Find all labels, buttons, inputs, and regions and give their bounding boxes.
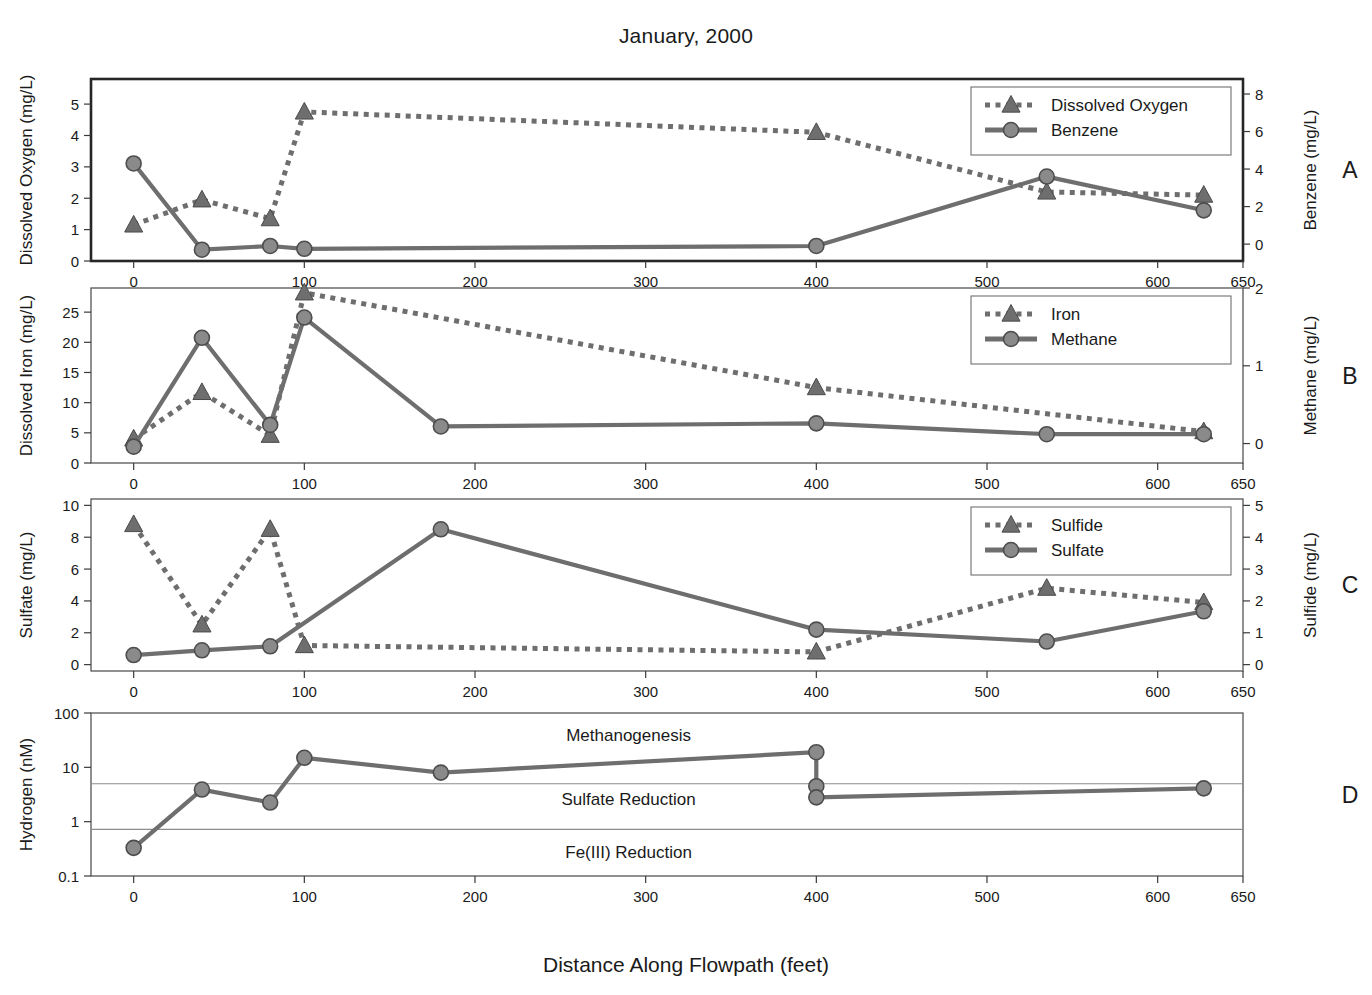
data-point-circle	[297, 310, 312, 325]
y-tick-label-left: 10	[62, 497, 79, 514]
data-point-circle	[1039, 427, 1054, 442]
data-point-circle	[433, 765, 448, 780]
y-tick-label-right: 2	[1255, 280, 1263, 297]
data-point-triangle	[295, 636, 313, 653]
legend-panel-a: Dissolved OxygenBenzene	[971, 87, 1231, 155]
figure-root: January, 2000 012345Dissolved Oxygen (mg…	[0, 0, 1372, 995]
data-point-circle	[433, 419, 448, 434]
y-tick-label-left: 0.1	[58, 868, 79, 885]
panel-c: 0246810Sulfate (mg/L)012345Sulfide (mg/L…	[17, 497, 1358, 700]
y-axis-title-left: Dissolved Iron (mg/L)	[17, 295, 36, 457]
panel-letter-b: B	[1342, 363, 1357, 389]
data-point-triangle	[125, 515, 143, 532]
y-tick-label-left: 5	[71, 96, 79, 113]
legend-label: Sulfide	[1051, 516, 1103, 535]
data-point-circle	[433, 522, 448, 537]
x-tick-label: 600	[1145, 888, 1170, 905]
panel-d: 0.1110100Hydrogen (nM)010020030040050060…	[17, 705, 1358, 906]
x-tick-label: 400	[804, 683, 829, 700]
multi-panel-chart: 012345Dissolved Oxygen (mg/L)02468Benzen…	[0, 48, 1372, 978]
data-point-circle	[297, 750, 312, 765]
x-tick-label: 600	[1145, 475, 1170, 492]
data-point-circle	[194, 242, 209, 257]
y-tick-label-left: 100	[54, 705, 79, 722]
x-tick-label: 300	[633, 888, 658, 905]
data-point-circle	[1039, 169, 1054, 184]
data-point-circle	[1004, 332, 1019, 347]
figure-title: January, 2000	[0, 24, 1372, 48]
x-tick-label: 200	[462, 683, 487, 700]
y-tick-label-right: 5	[1255, 497, 1263, 514]
x-tick-label: 400	[804, 475, 829, 492]
data-point-circle	[1004, 543, 1019, 558]
legend-label: Methane	[1051, 330, 1117, 349]
y-tick-label-right: 1	[1255, 357, 1263, 374]
data-point-circle	[809, 416, 824, 431]
legend-label: Iron	[1051, 305, 1080, 324]
x-tick-label: 0	[129, 683, 137, 700]
y-tick-label-left: 10	[62, 759, 79, 776]
zone-label: Methanogenesis	[566, 726, 691, 745]
x-tick-label: 600	[1145, 683, 1170, 700]
x-tick-label: 500	[974, 888, 999, 905]
panel-letter-d: D	[1342, 782, 1359, 808]
x-tick-label: 650	[1230, 683, 1255, 700]
data-point-triangle	[261, 520, 279, 537]
y-tick-label-right: 2	[1255, 198, 1263, 215]
y-tick-label-left: 6	[71, 561, 79, 578]
x-tick-label: 200	[462, 475, 487, 492]
y-tick-label-right: 4	[1255, 529, 1263, 546]
panel-letter-a: A	[1342, 157, 1358, 183]
x-tick-label: 400	[804, 888, 829, 905]
y-axis-title-right: Methane (mg/L)	[1301, 316, 1320, 436]
legend-label: Benzene	[1051, 121, 1118, 140]
y-tick-label-right: 0	[1255, 236, 1263, 253]
y-tick-label-left: 20	[62, 334, 79, 351]
y-tick-label-left: 25	[62, 304, 79, 321]
y-tick-label-right: 8	[1255, 86, 1263, 103]
legend-panel-c: SulfideSulfate	[971, 507, 1231, 575]
data-point-circle	[194, 782, 209, 797]
x-tick-label: 500	[974, 683, 999, 700]
y-tick-label-left: 4	[71, 127, 79, 144]
x-tick-label: 0	[129, 475, 137, 492]
data-point-circle	[1196, 604, 1211, 619]
data-point-circle	[263, 417, 278, 432]
data-point-triangle	[193, 190, 211, 207]
y-tick-label-left: 0	[71, 656, 79, 673]
y-tick-label-left: 8	[71, 529, 79, 546]
x-tick-label: 300	[633, 475, 658, 492]
x-tick-label: 650	[1230, 475, 1255, 492]
y-tick-label-left: 2	[71, 190, 79, 207]
data-point-circle	[194, 330, 209, 345]
y-tick-label-left: 5	[71, 424, 79, 441]
data-point-circle	[1196, 203, 1211, 218]
data-point-circle	[1196, 427, 1211, 442]
y-tick-label-right: 2	[1255, 592, 1263, 609]
y-tick-label-right: 6	[1255, 123, 1263, 140]
x-tick-label: 0	[129, 888, 137, 905]
zone-label: Fe(III) Reduction	[565, 843, 692, 862]
data-point-circle	[194, 643, 209, 658]
zone-label: Sulfate Reduction	[561, 790, 695, 809]
y-axis-title-left: Hydrogen (nM)	[17, 738, 36, 851]
x-axis-title: Distance Along Flowpath (feet)	[0, 953, 1372, 977]
y-tick-label-right: 0	[1255, 656, 1263, 673]
data-point-circle	[263, 238, 278, 253]
y-tick-label-left: 3	[71, 158, 79, 175]
panel-b: 0510152025Dissolved Iron (mg/L)012Methan…	[17, 280, 1358, 493]
data-point-triangle	[125, 215, 143, 232]
x-tick-label: 300	[633, 683, 658, 700]
data-point-circle	[1039, 634, 1054, 649]
x-tick-label: 100	[292, 683, 317, 700]
y-tick-label-right: 0	[1255, 435, 1263, 452]
x-tick-label: 100	[292, 475, 317, 492]
y-tick-label-left: 4	[71, 592, 79, 609]
y-tick-label-right: 4	[1255, 161, 1263, 178]
data-point-triangle	[193, 383, 211, 400]
data-point-circle	[809, 790, 824, 805]
data-point-circle	[809, 622, 824, 637]
data-point-circle	[297, 241, 312, 256]
panel-a: 012345Dissolved Oxygen (mg/L)02468Benzen…	[17, 75, 1358, 290]
x-tick-label: 200	[462, 888, 487, 905]
